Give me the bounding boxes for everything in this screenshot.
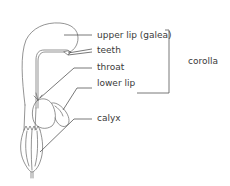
leader-lower-lip: [63, 88, 92, 110]
label-teeth: teeth: [97, 45, 121, 55]
label-calyx: calyx: [97, 113, 121, 123]
label-throat: throat: [97, 62, 124, 72]
label-upper-lip: upper lip (galea): [97, 30, 172, 40]
label-lower-lip: lower lip: [97, 78, 135, 88]
label-corolla: corolla: [188, 56, 218, 66]
leader-calyx: [40, 119, 92, 152]
leader-teeth: [68, 49, 92, 55]
flower-drawing: [0, 0, 230, 186]
leader-throat: [40, 68, 92, 98]
